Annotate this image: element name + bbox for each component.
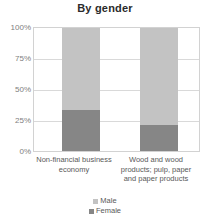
y-axis-tick-100: 100%	[3, 24, 31, 32]
bar-segment-male	[62, 28, 100, 110]
bar-segment-male	[140, 28, 178, 125]
y-axis-tick-0: 0%	[3, 148, 31, 156]
legend-item-female: Female	[0, 206, 210, 216]
plot-area	[33, 27, 200, 152]
bar-segment-female	[140, 125, 178, 151]
x-axis-labels: Non-financial business economy Wood and …	[33, 155, 200, 195]
chart-title: By gender	[0, 2, 210, 14]
chart-legend: Male Female	[0, 196, 210, 216]
y-axis-tick-50: 50%	[3, 86, 31, 94]
legend-swatch-icon	[89, 209, 94, 214]
legend-swatch-icon	[93, 199, 98, 204]
legend-item-male: Male	[0, 196, 210, 206]
x-axis-label-1: Wood and wood products; pulp, paper and …	[114, 155, 198, 184]
chart-container: By gender 100% 75% 50% 25% 0% Non-financ…	[0, 0, 210, 223]
legend-label: Male	[100, 196, 116, 205]
x-axis-label-0: Non-financial business economy	[32, 155, 116, 174]
y-axis-tick-25: 25%	[3, 117, 31, 125]
bar-group-wood-products	[140, 28, 178, 151]
y-axis-tick-75: 75%	[3, 55, 31, 63]
bar-group-non-financial	[62, 28, 100, 151]
legend-label: Female	[96, 206, 121, 215]
bar-segment-female	[62, 110, 100, 151]
